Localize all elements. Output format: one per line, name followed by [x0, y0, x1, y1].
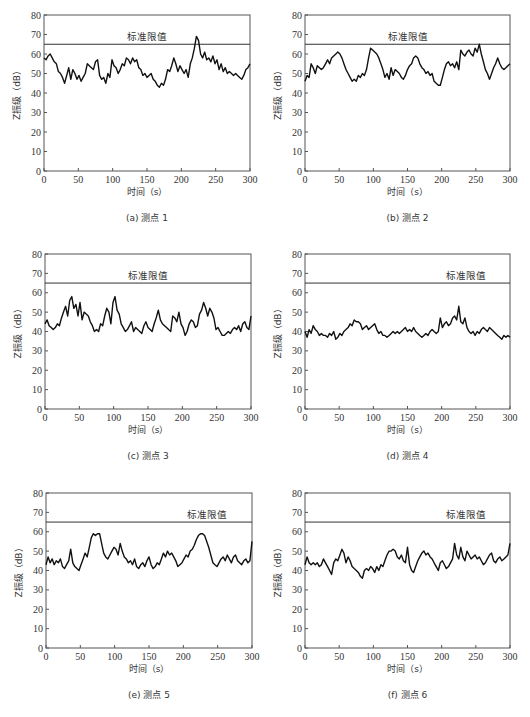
data-series-line — [46, 534, 252, 571]
x-tick-label: 100 — [366, 174, 381, 185]
y-tick-label: 0 — [37, 404, 42, 415]
y-tick-label: 50 — [32, 307, 42, 318]
y-axis-title: Z振级（dB） — [272, 543, 283, 597]
x-tick-label: 250 — [209, 412, 224, 423]
x-axis-title: 时间（s） — [387, 663, 428, 674]
x-tick-label: 200 — [174, 174, 189, 185]
y-tick-label: 50 — [292, 68, 302, 79]
y-tick-label: 0 — [36, 166, 41, 177]
limit-line-label: 标准限值 — [127, 31, 167, 42]
data-series-line — [305, 543, 510, 578]
panel-caption: (f) 测点 6 — [388, 690, 428, 700]
x-axis-title: 时间（s） — [127, 186, 168, 197]
x-tick-label: 100 — [107, 651, 122, 662]
y-tick-label: 30 — [292, 584, 302, 595]
y-tick-label: 0 — [297, 643, 302, 654]
x-axis-title: 时间（s） — [128, 424, 169, 435]
y-tick-label: 70 — [292, 507, 302, 518]
y-tick-label: 30 — [33, 584, 43, 595]
x-tick-label: 0 — [303, 412, 308, 423]
x-tick-label: 200 — [176, 651, 191, 662]
x-tick-label: 300 — [244, 412, 259, 423]
y-tick-label: 80 — [33, 488, 43, 499]
x-tick-label: 300 — [245, 651, 260, 662]
y-tick-label: 40 — [292, 88, 302, 99]
y-axis-title: Z振级（dB） — [272, 304, 283, 358]
x-tick-label: 150 — [141, 412, 156, 423]
y-tick-label: 70 — [32, 268, 42, 279]
limit-line-label: 标准限值 — [388, 31, 428, 42]
x-axis-title: 时间（s） — [129, 663, 170, 674]
y-tick-label: 30 — [292, 345, 302, 356]
x-tick-label: 300 — [243, 174, 258, 185]
x-tick-label: 50 — [74, 412, 84, 423]
y-tick-label: 70 — [292, 29, 302, 40]
panel-caption: (d) 测点 4 — [386, 451, 428, 461]
y-tick-label: 70 — [31, 29, 41, 40]
y-tick-label: 40 — [292, 326, 302, 337]
y-tick-label: 20 — [33, 604, 43, 615]
y-tick-label: 10 — [32, 384, 42, 395]
y-tick-label: 60 — [292, 287, 302, 298]
y-tick-label: 80 — [292, 249, 302, 260]
y-tick-label: 80 — [31, 10, 41, 21]
x-axis-title: 时间（s） — [387, 186, 428, 197]
y-tick-label: 40 — [33, 565, 43, 576]
y-tick-label: 0 — [297, 404, 302, 415]
y-tick-label: 60 — [32, 287, 42, 298]
panel-caption: (b) 测点 2 — [386, 213, 428, 223]
x-tick-label: 100 — [366, 412, 381, 423]
x-tick-label: 50 — [334, 174, 344, 185]
x-tick-label: 100 — [106, 412, 121, 423]
figure-canvas: 01020304050607080050100150200250300时间（s）… — [0, 0, 530, 717]
chart-panel-e: 01020304050607080050100150200250300时间（s）… — [13, 488, 260, 701]
y-tick-label: 20 — [292, 604, 302, 615]
y-tick-label: 60 — [31, 49, 41, 60]
y-tick-label: 10 — [31, 146, 41, 157]
chart-panel-f: 01020304050607080050100150200250300时间（s）… — [272, 488, 518, 701]
y-tick-label: 20 — [292, 365, 302, 376]
x-axis-title: 时间（s） — [387, 424, 428, 435]
x-tick-label: 50 — [75, 651, 85, 662]
y-tick-label: 30 — [32, 345, 42, 356]
x-tick-label: 250 — [468, 651, 483, 662]
y-tick-label: 50 — [292, 546, 302, 557]
y-axis-title: Z振级（dB） — [272, 66, 283, 120]
x-tick-label: 50 — [334, 412, 344, 423]
y-axis-title: Z振级（dB） — [11, 66, 22, 120]
y-tick-label: 20 — [292, 127, 302, 138]
x-tick-label: 150 — [400, 174, 415, 185]
x-tick-label: 0 — [44, 651, 49, 662]
x-tick-label: 200 — [434, 412, 449, 423]
limit-line-label: 标准限值 — [128, 270, 168, 281]
y-tick-label: 10 — [292, 384, 302, 395]
x-tick-label: 150 — [142, 651, 157, 662]
y-tick-label: 30 — [292, 107, 302, 118]
x-tick-label: 50 — [73, 174, 83, 185]
limit-line-label: 标准限值 — [446, 509, 486, 520]
y-tick-label: 10 — [292, 146, 302, 157]
y-tick-label: 70 — [292, 268, 302, 279]
y-tick-label: 10 — [33, 623, 43, 634]
y-axis-title: Z振级（dB） — [12, 304, 23, 358]
y-tick-label: 60 — [292, 526, 302, 537]
data-series-line — [305, 306, 510, 339]
x-tick-label: 250 — [210, 651, 225, 662]
y-axis-title: Z振级（dB） — [13, 543, 24, 597]
data-series-line — [45, 297, 251, 336]
y-tick-label: 0 — [297, 166, 302, 177]
limit-line-label: 标准限值 — [187, 509, 227, 520]
x-tick-label: 250 — [468, 174, 483, 185]
chart-panel-b: 01020304050607080050100150200250300时间（s）… — [272, 10, 518, 224]
data-series-line — [305, 44, 510, 85]
y-tick-label: 20 — [31, 127, 41, 138]
chart-panel-c: 01020304050607080050100150200250300时间（s）… — [12, 249, 259, 462]
y-tick-label: 20 — [32, 365, 42, 376]
y-tick-label: 0 — [38, 643, 43, 654]
x-tick-label: 100 — [105, 174, 120, 185]
x-tick-label: 250 — [208, 174, 223, 185]
x-tick-label: 100 — [366, 651, 381, 662]
limit-line-label: 标准限值 — [446, 270, 486, 281]
y-tick-label: 30 — [31, 107, 41, 118]
y-tick-label: 50 — [292, 307, 302, 318]
